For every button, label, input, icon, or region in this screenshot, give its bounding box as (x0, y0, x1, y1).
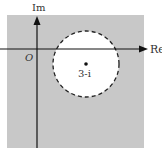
real-axis-label: Re (150, 43, 162, 56)
origin-label: O (25, 52, 33, 63)
complex-plane-diagram: Re Im O 3-i (0, 0, 162, 148)
center-point (84, 62, 88, 66)
center-label: 3-i (78, 68, 91, 79)
imaginary-axis-label: Im (32, 2, 46, 13)
